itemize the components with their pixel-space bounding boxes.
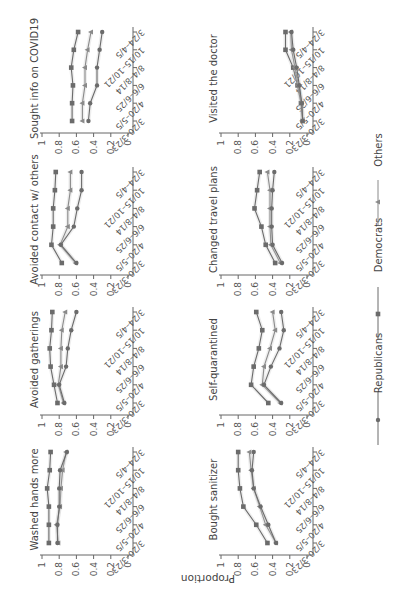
data-point-republicans — [74, 261, 78, 265]
value-tick-label: 0.4 — [268, 562, 278, 577]
data-point-republicans — [282, 328, 286, 332]
data-point-democrats — [50, 310, 55, 315]
value-tick-label: 0.8 — [54, 282, 64, 297]
data-point-republicans — [79, 170, 83, 174]
data-point-democrats — [55, 401, 60, 406]
panel-avoided-gatherings: 00.20.40.60.813/20–3/234/20–5/56/6–6/258… — [29, 307, 147, 436]
data-point-democrats — [45, 486, 50, 491]
data-point-republicans — [100, 30, 104, 34]
data-point-republicans — [74, 310, 78, 314]
data-point-democrats — [241, 504, 246, 509]
value-tick-label: 0.6 — [71, 422, 81, 437]
data-point-republicans — [272, 170, 276, 174]
data-point-republicans — [250, 468, 254, 472]
panel-title: Avoided gatherings — [29, 311, 40, 408]
data-point-democrats — [255, 188, 260, 193]
data-point-republicans — [88, 101, 92, 105]
data-point-democrats — [259, 224, 264, 229]
data-point-democrats — [48, 364, 53, 369]
value-tick-label: 0.6 — [71, 562, 81, 577]
data-point-democrats — [260, 328, 265, 333]
value-tick-label: 1 — [37, 422, 47, 428]
data-point-democrats — [47, 541, 52, 546]
data-point-republicans — [95, 65, 99, 69]
value-tick-label: 1 — [37, 140, 47, 146]
confidence-band-others — [262, 312, 280, 403]
data-point-democrats — [236, 450, 241, 455]
legend-item-democrats: Democrats — [373, 218, 384, 340]
data-point-republicans — [57, 504, 61, 508]
data-point-republicans — [79, 188, 83, 192]
data-point-democrats — [70, 119, 75, 124]
data-point-republicans — [97, 48, 101, 52]
chart: 00.20.40.60.813/20–3/234/20–5/56/6–6/258… — [0, 0, 397, 609]
data-point-republicans — [59, 243, 63, 247]
data-point-democrats — [254, 310, 259, 315]
value-tick-label: 0.6 — [250, 422, 260, 437]
data-point-democrats — [53, 188, 58, 193]
panel-title: Changed travel plans — [208, 166, 219, 273]
data-point-democrats — [263, 243, 268, 248]
data-point-democrats — [69, 65, 74, 70]
data-point-republicans — [277, 346, 281, 350]
data-point-democrats — [283, 48, 288, 53]
data-point-republicans — [270, 188, 274, 192]
data-point-democrats — [236, 468, 241, 473]
data-point-republicans — [301, 119, 305, 123]
value-tick-label: 1 — [216, 422, 226, 428]
panel-changed-travel-plans: 00.20.40.60.813/20–3/234/20–5/56/6–6/258… — [208, 166, 327, 296]
value-tick-label: 0.4 — [268, 140, 278, 155]
value-tick-label: 0.6 — [71, 282, 81, 297]
panel-washed-hands-more: 00.20.40.60.813/20–3/234/20–5/56/6–6/258… — [29, 447, 147, 576]
legend-marker-republicans — [376, 418, 380, 422]
value-tick-label: 0.6 — [250, 282, 260, 297]
data-point-republicans — [294, 65, 298, 69]
data-point-republicans — [69, 328, 73, 332]
data-point-democrats — [249, 383, 254, 388]
data-point-republicans — [279, 310, 283, 314]
data-point-republicans — [72, 224, 76, 228]
data-point-republicans — [270, 206, 274, 210]
data-point-democrats — [47, 468, 52, 473]
value-tick-label: 0.4 — [268, 282, 278, 297]
data-point-democrats — [257, 170, 262, 175]
data-point-democrats — [265, 541, 270, 546]
data-point-democrats — [47, 346, 52, 351]
legend: RepublicansDemocratsOthers — [373, 133, 384, 445]
value-tick-label: 0.8 — [233, 140, 243, 155]
panel-title: Self-quarantined — [208, 318, 219, 401]
data-point-democrats — [47, 504, 52, 509]
data-point-republicans — [65, 450, 69, 454]
value-tick-label: 0.4 — [89, 562, 99, 577]
legend-item-others: Others — [373, 133, 384, 225]
value-tick-label: 0.4 — [268, 422, 278, 437]
confidence-band-republicans — [252, 452, 276, 543]
value-tick-label: 1 — [216, 282, 226, 288]
data-point-democrats — [70, 101, 75, 106]
data-point-republicans — [64, 364, 68, 368]
value-tick-label: 0.4 — [89, 140, 99, 155]
data-point-democrats — [51, 206, 56, 211]
data-point-democrats — [273, 261, 278, 266]
legend-label: Democrats — [373, 218, 384, 273]
panel-avoided-contact-w-others: 00.20.40.60.813/20–3/234/20–5/56/6–6/258… — [29, 154, 147, 296]
data-point-democrats — [71, 83, 76, 88]
data-point-democrats — [266, 401, 271, 406]
value-tick-label: 0.8 — [54, 140, 64, 155]
value-tick-label: 0.8 — [54, 562, 64, 577]
value-tick-label: 0.4 — [89, 422, 99, 437]
data-point-republicans — [280, 261, 284, 265]
data-point-republicans — [291, 48, 295, 52]
data-point-democrats — [48, 450, 53, 455]
data-point-republicans — [95, 83, 99, 87]
value-tick-label: 0.8 — [233, 282, 243, 297]
data-point-republicans — [66, 346, 70, 350]
confidence-band-democrats — [50, 312, 58, 403]
legend-label: Others — [373, 133, 384, 167]
data-point-republicans — [58, 468, 62, 472]
panel-sought-info-on-covid19: 00.20.40.60.813/20–3/234/20–5/56/6–6/258… — [29, 18, 147, 154]
data-point-republicans — [270, 243, 274, 247]
value-tick-label: 0.8 — [54, 422, 64, 437]
panel-title: Sought info on COVID19 — [29, 18, 40, 139]
data-point-republicans — [251, 450, 255, 454]
